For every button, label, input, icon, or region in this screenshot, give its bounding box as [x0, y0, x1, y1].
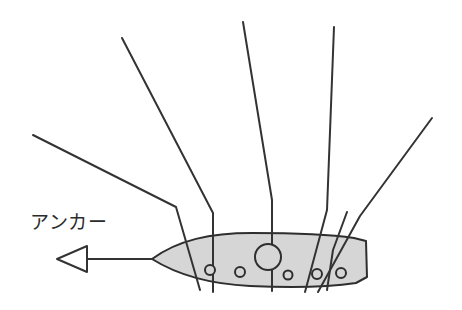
diagram-canvas: [0, 0, 462, 310]
small-port-hole-5: [336, 268, 346, 278]
small-port-hole-3: [284, 271, 293, 280]
center-port-hole: [255, 244, 281, 270]
anchor-label: アンカー: [30, 213, 107, 232]
small-port-hole-1: [205, 265, 215, 275]
small-port-hole-2: [235, 267, 245, 277]
figure-root: アンカー: [0, 0, 462, 310]
small-port-hole-4: [312, 269, 322, 279]
